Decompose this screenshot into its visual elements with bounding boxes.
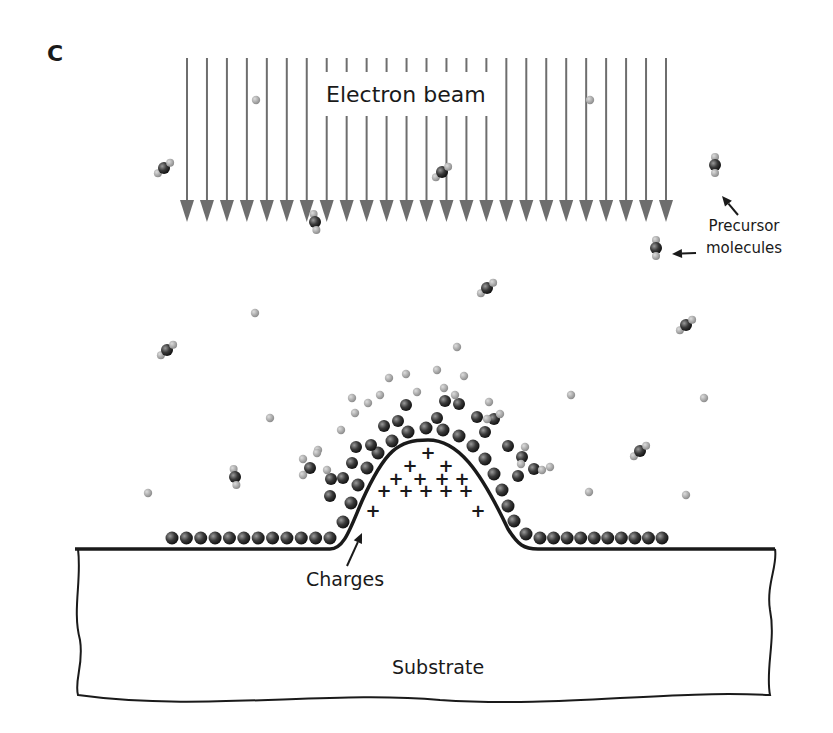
- charge-symbol: +: [438, 480, 453, 501]
- ligand-atom: [483, 415, 491, 423]
- ligand-atom: [144, 489, 152, 497]
- charge-symbol: +: [376, 480, 391, 501]
- ligand-atom: [586, 96, 594, 104]
- deposit-atom: [502, 500, 515, 513]
- ligand-atom: [312, 226, 320, 234]
- charge-symbol: +: [365, 500, 380, 521]
- ligand-atom: [351, 409, 359, 417]
- deposit-atom: [508, 515, 521, 528]
- precursor-molecules-label: Precursor molecules: [706, 215, 782, 259]
- ligand-atom: [453, 343, 461, 351]
- deposit-atom: [194, 532, 207, 545]
- deposit-atom: [588, 532, 601, 545]
- precursor-molecule: [157, 341, 177, 359]
- deposit-atom: [345, 497, 358, 510]
- fibid-diagram: ++++++++++++++: [0, 0, 833, 733]
- deposit-atom: [337, 472, 349, 484]
- deposit-atom: [237, 532, 250, 545]
- deposit-atom: [337, 516, 350, 529]
- precursor-molecule: [477, 279, 497, 297]
- ligand-atom: [485, 398, 493, 406]
- deposit-atom: [547, 532, 560, 545]
- deposit-atom: [400, 399, 412, 411]
- ligand-atom: [567, 391, 575, 399]
- deposit-atom: [392, 415, 404, 427]
- deposit-atom: [615, 532, 628, 545]
- precursor-molecule: [650, 236, 662, 260]
- ligand-atom: [251, 309, 259, 317]
- deposit-atom: [431, 412, 443, 424]
- ligand-atom: [440, 384, 448, 392]
- ligand-atom: [585, 488, 593, 496]
- deposit-atom: [656, 532, 669, 545]
- deposit-atom: [453, 430, 466, 443]
- pointer-arrow: [347, 542, 358, 566]
- ligand-atom: [451, 391, 459, 399]
- deposit-atom: [479, 453, 492, 466]
- substrate-label: Substrate: [392, 658, 484, 677]
- deposit-atom: [352, 479, 365, 492]
- deposit-atom: [520, 528, 533, 541]
- deposit-atom: [467, 440, 480, 453]
- ligand-atom: [444, 163, 452, 171]
- deposit-atom: [280, 532, 293, 545]
- deposit-atom: [496, 484, 509, 497]
- ligand-atom: [682, 491, 690, 499]
- deposit-atom: [628, 532, 641, 545]
- precursor-label-line1: Precursor: [706, 215, 782, 237]
- deposit-atom: [479, 426, 491, 438]
- ligand-atom: [402, 370, 410, 378]
- ligand-atom: [348, 394, 356, 402]
- precursor-molecule: [432, 163, 452, 181]
- deposit-atom: [601, 532, 614, 545]
- deposit-atom: [223, 532, 236, 545]
- charge-symbol: +: [470, 500, 485, 521]
- charge-symbol: +: [420, 442, 435, 463]
- ligand-atom: [489, 279, 497, 287]
- precursor-label-line2: molecules: [706, 237, 782, 259]
- precursor-molecule: [154, 159, 174, 177]
- deposit-atom: [378, 420, 390, 432]
- ligand-atom: [538, 466, 546, 474]
- deposit-atom: [266, 532, 279, 545]
- deposit-atom: [471, 411, 483, 423]
- ligand-atom: [313, 449, 321, 457]
- precursor-molecule: [709, 153, 721, 177]
- ligand-atom: [496, 410, 504, 418]
- deposit-atom: [402, 426, 415, 439]
- precursor-molecule: [309, 210, 321, 234]
- ligand-atom: [688, 316, 696, 324]
- deposit-atom: [365, 439, 377, 451]
- ligand-atom: [376, 391, 384, 399]
- deposit-atom: [439, 395, 451, 407]
- deposit-atom: [502, 440, 514, 452]
- ligand-atom: [337, 426, 345, 434]
- ligand-atom: [433, 366, 441, 374]
- charge-symbol: +: [418, 480, 433, 501]
- substrate-outline: [77, 549, 776, 702]
- deposit-atom: [346, 457, 358, 469]
- pointer-arrow: [682, 253, 696, 254]
- ligand-atom: [413, 388, 421, 396]
- charges-label: Charges: [306, 570, 384, 589]
- deposit-atom: [642, 532, 655, 545]
- ligand-atom: [169, 341, 177, 349]
- ligand-atom: [546, 463, 554, 471]
- ligand-atom: [232, 481, 240, 489]
- ligand-atom: [252, 96, 260, 104]
- ligand-atom: [323, 466, 331, 474]
- ligand-atom: [700, 394, 708, 402]
- charge-symbol: +: [458, 480, 473, 501]
- deposit-atom: [295, 532, 308, 545]
- panel-letter: C: [47, 43, 63, 65]
- ligand-atom: [642, 442, 650, 450]
- charge-symbol: +: [398, 480, 413, 501]
- precursor-molecule: [630, 442, 650, 460]
- deposit-atom: [561, 532, 574, 545]
- deposit-atom: [325, 473, 337, 485]
- deposit-atom: [386, 435, 399, 448]
- ligand-atom: [517, 460, 525, 468]
- ligand-atom: [385, 374, 393, 382]
- pointer-arrows: [347, 196, 738, 566]
- deposit-atom: [209, 532, 222, 545]
